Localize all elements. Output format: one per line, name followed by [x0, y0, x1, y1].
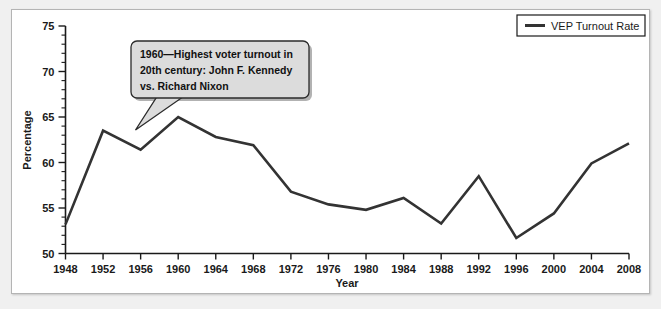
x-tick-label: 2000	[542, 263, 566, 275]
callout-line-2: 20th century: John F. Kennedy	[140, 64, 292, 76]
x-tick-label: 1976	[316, 263, 340, 275]
x-tick-label: 1956	[128, 263, 152, 275]
series-group	[66, 117, 630, 238]
y-tick-label: 55	[42, 202, 54, 214]
y-tick-label: 70	[42, 66, 54, 78]
x-tick-label: 1980	[354, 263, 378, 275]
y-tick-label: 60	[42, 157, 54, 169]
x-axis-ticks	[66, 254, 630, 260]
x-tick-label: 2008	[617, 263, 641, 275]
peak-1960-callout: 1960—Highest voter turnout in 20th centu…	[131, 41, 312, 130]
x-tick-label: 1972	[279, 263, 303, 275]
x-tick-label: 1952	[91, 263, 115, 275]
x-tick-label: 1960	[166, 263, 190, 275]
x-tick-label: 1968	[241, 263, 265, 275]
legend[interactable]: VEP Turnout Rate	[517, 15, 645, 36]
callout-line-3: vs. Richard Nixon	[140, 80, 229, 92]
legend-label-vep-turnout-rate: VEP Turnout Rate	[551, 20, 639, 32]
series-line-vep-turnout-rate	[66, 117, 630, 238]
y-axis-title: Percentage	[21, 110, 33, 169]
x-tick-label: 1948	[53, 263, 77, 275]
x-tick-label: 2004	[579, 263, 604, 275]
x-axis-tick-labels: 1948195219561960196419681972197619801984…	[53, 263, 641, 275]
callout-line-1: 1960—Highest voter turnout in	[140, 48, 293, 60]
x-tick-label: 1996	[504, 263, 528, 275]
figure-root: 505560657075 194819521956196019641968197…	[0, 0, 661, 309]
x-tick-label: 1984	[391, 263, 416, 275]
chart-panel: 505560657075 194819521956196019641968197…	[11, 9, 650, 294]
x-tick-label: 1992	[466, 263, 490, 275]
y-axis-ticks	[59, 26, 66, 254]
line-chart: 505560657075 194819521956196019641968197…	[12, 10, 649, 293]
y-tick-label: 50	[42, 248, 54, 260]
x-tick-label: 1988	[429, 263, 453, 275]
y-tick-label: 65	[42, 111, 54, 123]
y-tick-label: 75	[42, 20, 54, 32]
x-tick-label: 1964	[204, 263, 229, 275]
y-axis-tick-labels: 505560657075	[42, 20, 54, 260]
x-axis-title: Year	[335, 277, 359, 289]
